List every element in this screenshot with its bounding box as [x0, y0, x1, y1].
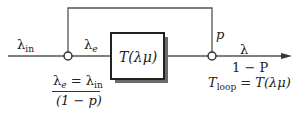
effective-equation-denominator: (1 − p): [56, 94, 102, 107]
effective-label: λe: [84, 38, 98, 54]
input-label: λin: [17, 38, 34, 54]
branch-node: [208, 52, 216, 60]
feedback-label: p: [216, 28, 224, 41]
output-label: λ: [240, 43, 248, 56]
loop-equation: Tloop = T(λμ): [208, 76, 291, 92]
block-label: T(λμ): [119, 50, 157, 64]
effective-equation-numerator: λe = λin: [53, 74, 103, 90]
arrow-head-icon: [281, 53, 292, 59]
output-denominator: 1 − P: [232, 61, 268, 74]
fraction-bar: [52, 91, 100, 92]
summing-node: [64, 52, 72, 60]
